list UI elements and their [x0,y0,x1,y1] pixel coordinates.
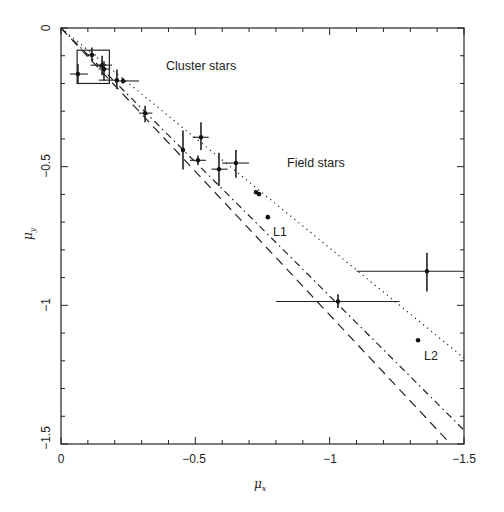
data-point-with-errors [357,253,464,292]
point-marker [102,67,106,71]
axis-ticks [61,28,464,444]
data-point-with-errors [276,294,400,308]
point-marker [336,299,340,303]
y-tick-neg1: −1 [39,298,53,312]
field-stars-label: Field stars [287,156,345,170]
data-point-with-errors [70,64,88,83]
l2-label: L2 [424,349,438,363]
point-marker [199,135,203,139]
data-point-with-errors [88,47,96,61]
data-point-with-errors [139,106,152,123]
point-marker [121,79,125,83]
point-marker [143,111,147,115]
point-marker [196,158,200,162]
x-tick-neg0.5: −0.5 [182,452,206,466]
dotted-line [61,28,464,358]
x-axis-label: μx [254,477,267,493]
point-marker [234,161,238,165]
proper-motion-chart: 0 −0.5 −1 −1.5 0 −0.5 −1 −1.5 μx μy Clus… [0,0,504,512]
l1-label: L1 [273,225,287,239]
point-marker [76,72,80,76]
dashed-line [61,28,451,444]
point-l2 [416,338,421,343]
point-marker [181,148,185,152]
y-tick-neg0.5: −0.5 [39,154,53,178]
x-tick-neg1.5: −1.5 [452,452,476,466]
point-marker [115,78,119,82]
x-tick-0: 0 [58,452,65,466]
dash-dot-line [61,28,464,430]
point-marker [217,167,221,171]
point-l1 [266,215,271,220]
point-marker [257,192,262,197]
y-axis-label: μy [21,227,37,240]
data-point-with-errors [117,78,138,84]
y-tick-0: 0 [39,24,53,31]
tick-labels: 0 −0.5 −1 −1.5 0 −0.5 −1 −1.5 [39,24,476,466]
point-marker [425,269,429,273]
plot-frame [61,28,464,444]
data-point-with-errors [181,131,185,170]
reference-lines [61,28,464,444]
cluster-stars-label: Cluster stars [166,59,236,73]
error-bar-points [70,47,464,308]
point-markers [254,190,421,343]
y-tick-neg1.5: −1.5 [39,426,53,450]
point-marker [90,53,94,57]
x-tick-neg1: −1 [323,452,337,466]
data-point-with-errors [193,122,209,150]
